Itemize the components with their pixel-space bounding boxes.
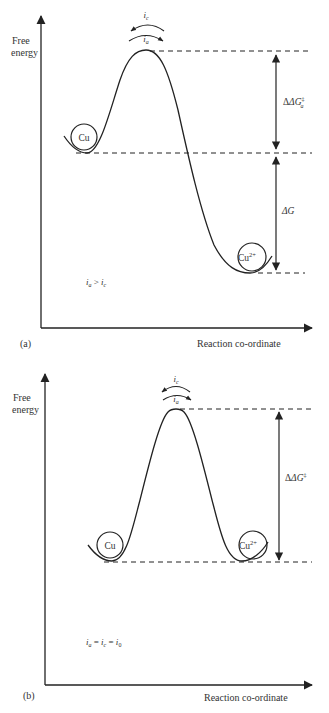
energy-curve [64,50,272,273]
cathodic-arrow [162,387,190,393]
reaction-energy-label: ΔG [281,206,295,216]
x-axis-label: Reaction co-ordinate [204,692,288,703]
cathodic-arrow [131,25,164,31]
panel-label: (a) [20,338,31,350]
condition-label: ia = ic = i0 [86,637,121,648]
y-axis-label: Free energy [11,35,38,58]
panel-label: (b) [23,690,35,702]
cu-label: Cu [104,541,115,551]
cu-label: Cu [78,133,89,143]
free-energy-diagrams: Free energy Reaction co-ordinate (a) Cu … [0,0,329,713]
activation-energy-label: ΔΔG‡ [285,472,307,483]
ic-label: ic [173,374,179,385]
cu2-label: Cu2+ [238,251,256,263]
x-axis-label: Reaction co-ordinate [197,338,281,349]
panel-b: Free energy Reaction co-ordinate (b) Cu … [12,374,312,703]
panel-a: Free energy Reaction co-ordinate (a) Cu … [11,10,312,350]
ic-label: ic [143,10,149,21]
y-axis-label: Free energy [12,392,39,415]
cu2-label: Cu2+ [239,539,257,551]
condition-label: ia > ic [86,277,107,288]
activation-energy-label: ΔΔG‡a [283,96,305,109]
